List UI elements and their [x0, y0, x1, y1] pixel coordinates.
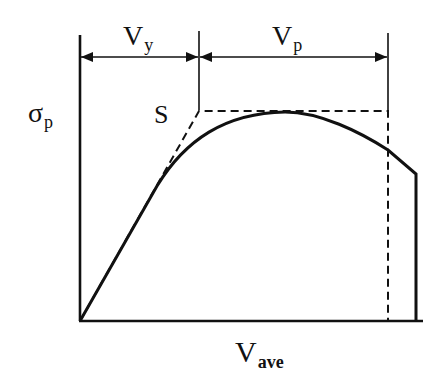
point-s-label: S — [154, 100, 168, 129]
x-axis-label: Vave — [235, 335, 284, 372]
vp-label: Vp — [272, 20, 302, 55]
stress-volume-diagram: Vy Vp S σp Vave — [0, 0, 448, 379]
idealized-dashed-curve — [80, 111, 388, 321]
y-axis-label: σp — [28, 97, 53, 132]
vy-label: Vy — [123, 20, 153, 55]
actual-solid-curve — [80, 112, 416, 321]
